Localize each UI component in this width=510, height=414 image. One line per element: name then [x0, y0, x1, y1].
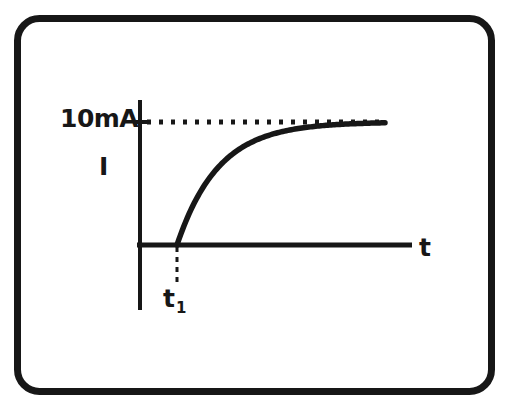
event-time-label-base: t [163, 284, 175, 313]
x-axis-label: t [419, 233, 431, 262]
page-background [0, 0, 510, 414]
figure-root: 10mA I t t1 [0, 0, 510, 414]
y-axis-value-label: 10mA [60, 104, 139, 133]
event-time-label-subscript: 1 [176, 299, 186, 317]
y-axis-quantity-label: I [99, 152, 108, 181]
current-vs-time-graph: 10mA I t t1 [0, 0, 510, 414]
